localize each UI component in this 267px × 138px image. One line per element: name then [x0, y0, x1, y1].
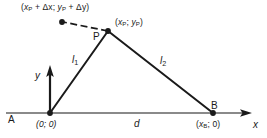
displaced-point-coordinate-label: (xP + Δx; yP + Δy) — [21, 3, 89, 12]
segment-l2 — [108, 31, 213, 113]
segment-l2-label: l2 — [160, 56, 166, 67]
x-axis-label: x — [253, 120, 258, 130]
segment-l1-label: l1 — [72, 55, 78, 66]
origin-point-marker — [47, 110, 53, 116]
point-b-coordinate-label: (xB; 0) — [196, 120, 220, 129]
point-p-coordinate-label: (xP; yP) — [115, 18, 143, 27]
displaced-point-marker — [59, 19, 65, 25]
geometry-diagram: (xP + Δx; yP + Δy) (xP; yP) P l1 l2 y x … — [0, 0, 267, 138]
point-p-label: P — [93, 32, 100, 42]
y-axis-label: y — [35, 71, 40, 81]
point-p-marker — [105, 28, 111, 34]
distance-d-label: d — [134, 119, 140, 129]
segment-l1-subscript: 1 — [74, 58, 78, 67]
point-b-label: B — [211, 101, 218, 111]
segment-l1 — [50, 31, 108, 113]
dashed-displacement-connector — [63, 22, 108, 31]
segment-l2-subscript: 2 — [162, 59, 166, 68]
point-a-label: A — [8, 115, 15, 125]
origin-coordinate-label: (0; 0) — [36, 120, 56, 129]
